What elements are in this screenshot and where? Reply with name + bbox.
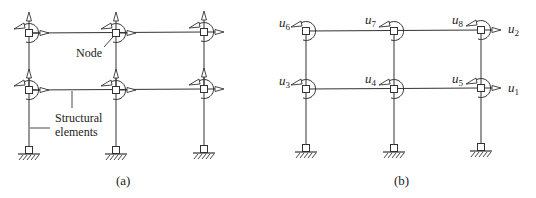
node-dof-icon <box>101 12 136 43</box>
dof-label-u8: u8 <box>452 14 463 30</box>
fixed-support-icon <box>383 145 405 159</box>
panel-a <box>14 11 224 160</box>
fixed-support-icon <box>18 147 40 161</box>
dof-label-u5: u5 <box>452 73 463 89</box>
fixed-support-icon <box>470 144 492 158</box>
node-dof-icon <box>189 68 224 99</box>
dof-label-u3: u3 <box>279 75 290 91</box>
node-dof-icon <box>101 69 136 100</box>
dof-label-u4: u4 <box>365 73 376 89</box>
node-dof-icon <box>189 11 224 42</box>
node-leader-line <box>104 37 113 47</box>
caption-a: (a) <box>116 174 130 187</box>
fixed-support-icon <box>193 146 215 160</box>
label-node: Node <box>76 47 102 59</box>
dof-label-u7: u7 <box>365 14 376 30</box>
node-dof-icon <box>14 12 49 43</box>
caption-b: (b) <box>394 174 409 187</box>
label-elements: elements <box>55 126 98 138</box>
dof-label-u2: u2 <box>508 23 519 39</box>
dof-label-u1: u1 <box>508 82 519 98</box>
label-structural: Structural <box>55 112 102 124</box>
node-dof-icon <box>14 69 49 100</box>
dof-label-u6: u6 <box>279 17 290 33</box>
fixed-support-icon <box>105 147 127 161</box>
fixed-support-icon <box>295 145 317 159</box>
panel-b <box>291 20 501 158</box>
